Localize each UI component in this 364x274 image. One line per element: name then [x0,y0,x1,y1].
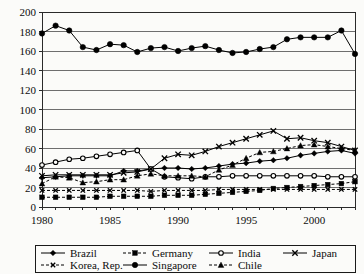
legend-label: Chile [238,259,262,271]
data-point-marker [40,195,45,200]
data-point-marker [176,193,181,198]
chart-background [0,0,364,274]
data-point-marker [40,163,45,168]
data-point-marker [53,160,58,165]
data-point-marker [216,47,221,52]
x-tick-label: 2000 [303,214,326,226]
data-point-marker [339,181,344,186]
data-point-marker [135,49,140,54]
data-point-marker [230,50,235,55]
x-tick-label: 1980 [31,214,54,226]
data-point-marker [67,195,72,200]
data-point-marker [189,45,194,50]
data-point-marker [80,44,85,49]
data-point-marker [121,194,126,199]
data-point-marker [81,156,86,161]
data-point-marker [94,154,99,159]
x-tick-label: 1990 [167,214,190,226]
data-point-marker [175,48,180,53]
data-point-marker [108,194,113,199]
y-tick-label: 100 [20,104,37,116]
data-point-marker [325,35,330,40]
y-tick-label: 140 [20,65,37,77]
data-point-marker [244,174,249,179]
y-tick-label: 200 [20,6,37,18]
data-point-marker [67,28,72,33]
data-point-marker [162,44,167,49]
data-point-marker [257,174,262,179]
legend-label: Japan [312,247,338,259]
data-point-marker [132,262,137,267]
data-point-marker [353,174,358,179]
data-point-marker [135,148,140,153]
y-tick-label: 40 [25,162,37,174]
data-point-marker [39,31,44,36]
data-point-marker [149,194,154,199]
data-point-marker [148,45,153,50]
chart-legend: BrazilGermanyIndiaJapanKorea, Rep.Singap… [35,245,355,272]
legend-label: Korea, Rep. [70,259,123,271]
y-tick-label: 160 [20,45,37,57]
data-point-marker [271,44,276,49]
data-point-marker [284,37,289,42]
y-tick-label: 80 [25,123,37,135]
data-point-marker [339,174,344,179]
data-point-marker [271,174,276,179]
data-point-marker [312,174,317,179]
data-point-marker [81,195,86,200]
data-point-marker [94,47,99,52]
data-point-marker [203,43,208,48]
data-point-marker [298,174,303,179]
data-point-marker [133,251,138,256]
x-tick-label: 1995 [235,214,258,226]
chart-canvas: 020406080100120140160180200 198019851990… [0,0,364,274]
data-point-marker [94,195,99,200]
data-point-marker [121,42,126,47]
data-point-marker [257,46,262,51]
data-point-marker [162,193,167,198]
data-point-marker [285,174,290,179]
legend-label: India [238,247,261,259]
legend-label: Germany [152,247,193,259]
data-point-marker [353,179,358,184]
data-point-marker [311,35,316,40]
x-tick-label: 1985 [99,214,122,226]
data-point-marker [53,23,58,28]
data-point-marker [107,41,112,46]
y-tick-label: 60 [25,143,37,155]
y-tick-label: 0 [31,201,37,213]
data-point-marker [53,195,58,200]
data-point-marker [243,49,248,54]
legend-label: Brazil [70,247,97,259]
data-point-marker [189,193,194,198]
y-tick-label: 180 [20,26,37,38]
data-point-marker [67,157,72,162]
y-tick-label: 20 [25,182,37,194]
data-point-marker [352,51,357,56]
data-point-marker [339,28,344,33]
data-point-marker [219,251,224,256]
legend-label: Singapore [152,259,197,271]
data-point-marker [108,152,113,157]
data-point-marker [217,174,222,179]
data-point-marker [121,150,126,155]
data-point-marker [298,35,303,40]
line-chart: 020406080100120140160180200 198019851990… [0,0,364,274]
data-point-marker [135,194,140,199]
y-tick-label: 120 [20,84,37,96]
data-point-marker [230,174,235,179]
data-point-marker [325,174,330,179]
data-point-marker [325,182,330,187]
